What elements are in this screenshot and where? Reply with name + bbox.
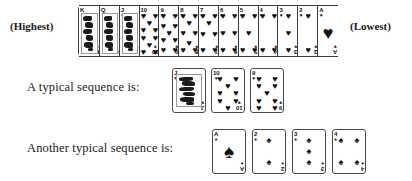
face-art-shape xyxy=(83,29,92,34)
sequence-card: A♠A♠♠ xyxy=(212,129,246,174)
face-art-shape xyxy=(186,102,194,105)
card-pip: ♥ xyxy=(272,83,277,90)
card-pip: ♥ xyxy=(225,83,230,90)
rank-strip-card: J♥J♥ xyxy=(119,5,140,57)
rank-strip-card: 7♥7♥♥♥♥♥♥♥♥ xyxy=(198,5,219,57)
sequence-1-caption: A typical sequence is: xyxy=(27,80,140,95)
face-card-illustration xyxy=(176,74,202,107)
card-pip: ♥ xyxy=(206,20,211,27)
card-pip: ♥ xyxy=(240,47,245,54)
card-pip: ♥ xyxy=(272,105,277,112)
card-pip-grid: ♥♥♥♥♥♥♥♥♥♥ xyxy=(140,6,160,56)
card-pip: ♥ xyxy=(181,13,186,20)
card-pip: ♥ xyxy=(147,20,152,27)
card-pip: ♥ xyxy=(200,31,205,38)
face-art-shape xyxy=(104,29,113,34)
card-pip: ♥ xyxy=(153,35,158,42)
face-art-shape xyxy=(183,92,195,97)
card-pip: ♥ xyxy=(153,49,158,56)
face-art-shape xyxy=(124,29,133,34)
card-pip-grid: ♥♥♥♥♥ xyxy=(239,6,259,56)
rank-strip-card: Q♥Q♥ xyxy=(99,5,120,57)
rank-strip-card: 9♥9♥♥♥♥♥♥♥♥♥♥ xyxy=(158,5,179,57)
card-pip: ♥ xyxy=(232,47,237,54)
sequence-card: J♥J♥ xyxy=(172,68,206,113)
card-pip: ♥ xyxy=(233,98,238,105)
rank-strip-card: A♥A♥♥ xyxy=(317,5,338,57)
rank-strip-card: 6♥6♥♥♥♥♥♥♥ xyxy=(218,5,239,57)
card-pip: ♥ xyxy=(173,23,178,30)
card-pip-grid: ♥♥♥♥♥♥♥♥♥♥ xyxy=(212,69,244,112)
face-art-shape xyxy=(83,16,92,21)
card-pip-grid: ♥♥♥♥ xyxy=(259,6,279,56)
card-pip: ♥ xyxy=(306,13,311,20)
face-art-shape xyxy=(124,16,132,21)
card-pip: ♠ xyxy=(355,137,360,144)
card-pip: ♥ xyxy=(225,105,230,112)
card-pip: ♥ xyxy=(220,47,225,54)
card-pip-grid: ♠♠♠ xyxy=(293,130,325,173)
face-art-shape xyxy=(104,16,112,21)
card-pip: ♥ xyxy=(220,30,225,37)
card-pip: ♥ xyxy=(141,35,146,42)
card-pip: ♥ xyxy=(240,13,245,20)
sequence-card: 2♠2♠♠♠ xyxy=(252,129,286,174)
rank-strip-card: 2♥2♥♥♥ xyxy=(297,5,318,57)
card-pip-grid: ♥♥♥♥♥♥♥♥ xyxy=(179,6,199,56)
card-pip: ♥ xyxy=(256,83,261,90)
card-pip: ♥ xyxy=(260,13,265,20)
face-art-shape xyxy=(88,48,93,52)
label-highest: (Highest) xyxy=(10,20,53,32)
face-art-shape xyxy=(106,35,113,41)
card-pip: ♥ xyxy=(212,47,217,54)
face-card-illustration xyxy=(81,13,98,54)
face-art-shape xyxy=(124,42,132,47)
sequence-card: 4♠4♠♠♠♠♠ xyxy=(332,129,366,174)
face-art-shape xyxy=(126,22,133,28)
face-art-shape xyxy=(105,42,113,47)
card-pip: ♥ xyxy=(192,47,197,54)
sequence-card: 9♥9♥♥♥♥♥♥♥♥♥♥ xyxy=(250,68,284,113)
card-pip: ♥ xyxy=(212,31,217,38)
face-art-shape xyxy=(128,48,133,52)
card-pip: ♥ xyxy=(264,90,269,97)
card-pip: ♥ xyxy=(153,13,158,20)
face-art-shape xyxy=(86,35,93,41)
card-pip: ♥ xyxy=(212,13,217,20)
card-pip: ♥ xyxy=(246,30,251,37)
card-pip: ♥ xyxy=(252,13,257,20)
card-pip: ♥ xyxy=(260,47,265,54)
face-art-shape xyxy=(108,48,113,52)
card-pip-grid: ♥♥♥♥♥♥ xyxy=(219,6,239,56)
card-pip: ♥ xyxy=(141,13,146,20)
card-pip: ♥ xyxy=(173,37,178,44)
rank-strip-card: 8♥8♥♥♥♥♥♥♥♥♥ xyxy=(178,5,199,57)
card-pip-grid: ♠♠♠♠ xyxy=(333,130,365,173)
card-pip: ♥ xyxy=(233,112,238,113)
card-pip: ♠ xyxy=(267,137,272,144)
card-pip: ♥ xyxy=(186,40,191,47)
card-pip: ♠ xyxy=(307,159,312,166)
rank-strip-card: 4♥4♥♥♥♥♥ xyxy=(258,5,279,57)
card-pip-grid: ♥♥ xyxy=(298,6,318,56)
card-pip: ♥ xyxy=(217,98,222,105)
card-pip: ♥ xyxy=(306,47,311,54)
card-pip: ♥ xyxy=(161,23,166,30)
card-pip: ♥ xyxy=(141,49,146,56)
card-pip: ♥ xyxy=(220,13,225,20)
face-card-illustration xyxy=(122,13,138,54)
card-rank-strip: K♥K♥Q♥Q♥J♥J♥10♥10♥♥♥♥♥♥♥♥♥♥♥9♥9♥♥♥♥♥♥♥♥♥… xyxy=(78,5,336,57)
card-pip: ♥ xyxy=(286,47,291,54)
card-pip: ♥ xyxy=(161,37,166,44)
rank-strip-card: K♥K♥ xyxy=(79,5,100,57)
card-pip: ♠ xyxy=(307,148,312,155)
card-pip: ♥ xyxy=(147,42,152,49)
card-pip: ♠ xyxy=(339,159,344,166)
card-pip: ♥ xyxy=(286,30,291,37)
card-pip: ♥ xyxy=(200,13,205,20)
face-art-shape xyxy=(179,87,194,91)
face-card-illustration xyxy=(102,13,118,54)
face-art-shape xyxy=(126,35,133,41)
face-art-shape xyxy=(85,22,93,28)
card-pip: ♥ xyxy=(232,13,237,20)
